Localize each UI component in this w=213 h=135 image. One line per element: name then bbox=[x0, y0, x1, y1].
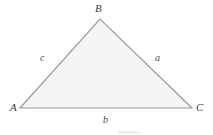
triangle-polygon bbox=[20, 19, 192, 108]
side-label-a: a bbox=[155, 53, 160, 63]
triangle-diagram: A B C c a b bbox=[0, 0, 213, 135]
vertex-label-a: A bbox=[10, 102, 17, 113]
vertex-label-b: B bbox=[95, 3, 102, 14]
side-label-b: b bbox=[103, 115, 108, 125]
vertex-label-c: C bbox=[196, 102, 203, 113]
scan-artifact bbox=[118, 131, 140, 134]
side-label-c: c bbox=[40, 53, 44, 63]
